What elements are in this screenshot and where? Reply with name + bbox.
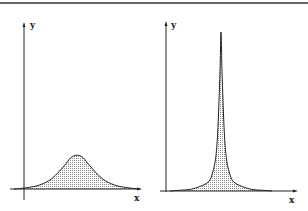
left-plot: y x <box>10 20 142 203</box>
left-peak-area <box>14 155 140 189</box>
right-x-label: x <box>289 195 295 205</box>
right-x-arrow-icon <box>293 190 298 193</box>
left-x-arrow-icon <box>137 188 142 191</box>
right-y-arrow-icon <box>165 21 168 26</box>
right-plot: y x <box>160 20 298 205</box>
right-peak-area <box>170 32 272 191</box>
left-y-label: y <box>29 20 36 30</box>
left-y-arrow-icon <box>23 22 26 27</box>
right-y-label: y <box>170 20 177 30</box>
figure: y x y x <box>0 0 308 211</box>
left-x-label: x <box>134 193 140 203</box>
